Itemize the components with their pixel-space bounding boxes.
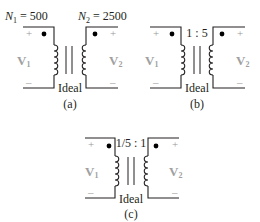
secondary-coil-icon bbox=[82, 45, 86, 75]
ideal-label: Ideal bbox=[185, 81, 210, 95]
primary-minus: – bbox=[25, 76, 32, 88]
primary-minus: – bbox=[87, 186, 94, 198]
voltage-label-v2: V2 bbox=[169, 164, 182, 180]
primary-plus: + bbox=[153, 27, 159, 39]
voltage-label-v1: V1 bbox=[85, 164, 98, 180]
primary-coil-icon bbox=[181, 45, 185, 75]
caption-c: (c) bbox=[124, 207, 137, 221]
turns-label-n1: N1 = 500 bbox=[4, 9, 48, 25]
secondary-plus: + bbox=[237, 27, 243, 39]
panel-c: + – V1 1/5 : 1 Ideal + – V2 (c) bbox=[85, 136, 182, 221]
secondary-plus: + bbox=[110, 27, 116, 39]
polarity-dot-secondary bbox=[93, 32, 98, 37]
caption-b: (b) bbox=[190, 97, 204, 111]
caption-a: (a) bbox=[63, 97, 76, 111]
voltage-label-v1: V1 bbox=[145, 53, 158, 69]
polarity-dot-primary bbox=[42, 32, 47, 37]
turns-ratio-label: 1 : 5 bbox=[186, 26, 207, 40]
ideal-label: Ideal bbox=[58, 81, 83, 95]
turns-ratio-label: 1/5 : 1 bbox=[116, 136, 147, 150]
primary-plus: + bbox=[26, 27, 32, 39]
panel-a: N1 = 500 N2 = 2500 + – V1 Ideal + – V2 (… bbox=[4, 9, 127, 111]
primary-minus: – bbox=[152, 76, 159, 88]
polarity-dot-primary bbox=[107, 144, 112, 149]
primary-plus: + bbox=[88, 138, 94, 150]
secondary-minus: – bbox=[171, 186, 178, 198]
polarity-dot-secondary bbox=[220, 32, 225, 37]
secondary-minus: – bbox=[109, 76, 116, 88]
panel-b: + – V1 1 : 5 Ideal + – V2 (b) bbox=[145, 26, 249, 111]
secondary-coil-icon bbox=[209, 45, 213, 75]
primary-coil-icon bbox=[115, 156, 119, 186]
ideal-transformer-diagram: N1 = 500 N2 = 2500 + – V1 Ideal + – V2 (… bbox=[0, 0, 260, 222]
ideal-label: Ideal bbox=[119, 192, 144, 206]
voltage-label-v1: V1 bbox=[17, 53, 30, 69]
turns-label-n2: N2 = 2500 bbox=[77, 9, 127, 25]
primary-coil-icon bbox=[54, 45, 58, 75]
polarity-dot-secondary bbox=[154, 144, 159, 149]
voltage-label-v2: V2 bbox=[109, 53, 122, 69]
secondary-plus: + bbox=[172, 138, 178, 150]
voltage-label-v2: V2 bbox=[236, 53, 249, 69]
secondary-coil-icon bbox=[144, 156, 148, 186]
secondary-minus: – bbox=[236, 76, 243, 88]
polarity-dot-primary bbox=[170, 32, 175, 37]
